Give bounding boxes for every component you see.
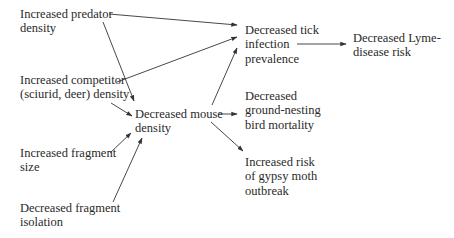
node-decreased-ground-nesting-bird-mortality: Decreased ground-nesting bird mortality (245, 89, 321, 132)
node-line: isolation (20, 215, 120, 229)
node-line: prevalence (245, 52, 319, 66)
node-line: Increased fragment (20, 146, 116, 160)
node-decreased-tick-infection-prevalence: Decreased tick infection prevalence (245, 23, 319, 66)
node-line: Decreased fragment (20, 201, 120, 215)
node-increased-fragment-size: Increased fragment size (20, 146, 116, 175)
node-increased-competitor-density: Increased competitor (sciurid, deer) den… (20, 73, 129, 102)
edge-fragment-isolation-to-mouse (113, 138, 142, 202)
edge-competitor-to-tick (117, 37, 237, 82)
node-line: (sciurid, deer) density (20, 87, 129, 101)
node-increased-risk-gypsy-moth-outbreak: Increased risk of gypsy moth outbreak (245, 155, 317, 198)
node-line: density (135, 121, 223, 135)
node-line: ground-nesting (245, 103, 321, 117)
node-line: density (20, 21, 113, 35)
node-line: Decreased tick (245, 23, 319, 37)
node-increased-predator-density: Increased predator density (20, 7, 113, 36)
edge-mouse-to-tick (212, 48, 237, 105)
node-line: Increased predator (20, 7, 113, 21)
node-line: size (20, 160, 116, 174)
node-decreased-mouse-density: Decreased mouse density (135, 107, 223, 136)
edge-competitor-to-mouse (111, 103, 132, 116)
node-line: Decreased (245, 89, 321, 103)
node-line: infection (245, 37, 319, 51)
node-line: Increased risk (245, 155, 317, 169)
node-decreased-fragment-isolation: Decreased fragment isolation (20, 201, 120, 230)
edge-predator-to-tick (109, 14, 237, 25)
node-line: of gypsy moth (245, 169, 317, 183)
node-decreased-lyme-disease-risk: Decreased Lyme- disease risk (353, 31, 441, 60)
diagram-canvas: Increased predator density Increased com… (0, 0, 454, 238)
node-line: Increased competitor (20, 73, 129, 87)
node-line: bird mortality (245, 118, 321, 132)
node-line: Decreased Lyme- (353, 31, 441, 45)
node-line: outbreak (245, 184, 317, 198)
node-line: Decreased mouse (135, 107, 223, 121)
node-line: disease risk (353, 45, 441, 59)
